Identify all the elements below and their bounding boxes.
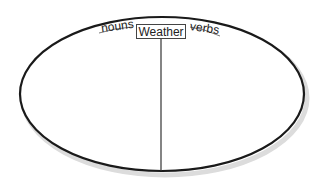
oval-outline [20, 17, 304, 171]
verbs-label: verbs [189, 20, 220, 36]
title-text: Weather [138, 25, 183, 39]
title-box: Weather [136, 24, 186, 39]
